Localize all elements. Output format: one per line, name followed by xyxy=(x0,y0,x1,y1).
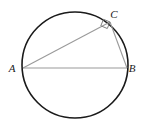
vertex-label-c: C xyxy=(110,8,118,20)
vertex-label-a: A xyxy=(8,62,16,74)
geometry-figure: A B C xyxy=(0,0,151,131)
vertex-label-b: B xyxy=(129,62,136,74)
figure-canvas: A B C xyxy=(0,0,151,131)
